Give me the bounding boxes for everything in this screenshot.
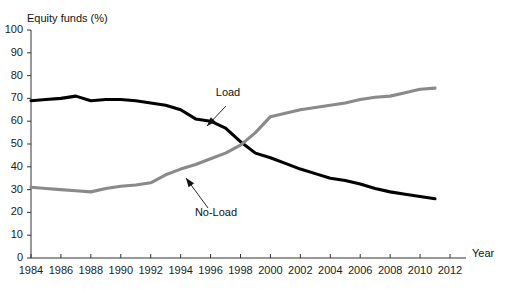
series-annotation-no-load: No-Load [195, 206, 237, 218]
y-axis-tick-label: 30 [0, 184, 23, 195]
y-axis-tick-label: 10 [0, 229, 23, 240]
chart-container: Equity funds (%) Year 010203040506070809… [0, 0, 505, 289]
y-axis-tick-label: 70 [0, 92, 23, 103]
y-axis-tick-label: 20 [0, 206, 23, 217]
x-axis-tick-label: 2012 [425, 265, 475, 276]
y-axis-title: Equity funds (%) [27, 12, 108, 24]
axis-lines [31, 30, 466, 258]
series-annotation-load: Load [216, 86, 240, 98]
annotation-arrow-head [186, 178, 194, 187]
y-axis-tick-label: 80 [0, 70, 23, 81]
y-axis-tick-label: 100 [0, 24, 23, 35]
y-axis-ticks [27, 30, 31, 258]
data-series-lines [31, 88, 435, 199]
y-axis-tick-label: 90 [0, 47, 23, 58]
y-axis-tick-label: 60 [0, 115, 23, 126]
x-axis-title: Year [472, 247, 494, 259]
series-line-no-load [31, 88, 435, 192]
chart-plot-area [0, 0, 505, 289]
x-axis-ticks [31, 254, 450, 258]
y-axis-tick-label: 50 [0, 138, 23, 149]
y-axis-tick-label: 40 [0, 161, 23, 172]
y-axis-tick-label: 0 [0, 252, 23, 263]
